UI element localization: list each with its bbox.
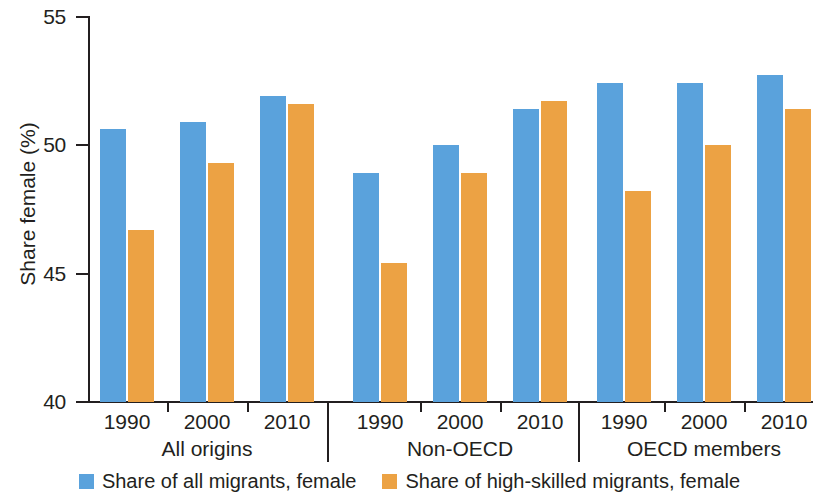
y-axis-tick-50 (76, 144, 88, 146)
bar-all-migrants-1-1990 (353, 173, 379, 402)
bar-high-skilled-1-2000 (461, 173, 487, 402)
chart-legend: Share of all migrants, female Share of h… (0, 470, 819, 492)
x-axis-year-label-2-2000: 2000 (666, 410, 742, 433)
bar-high-skilled-0-2010 (288, 104, 314, 403)
group-separator-1 (327, 402, 329, 462)
x-axis-year-label-0-2010: 2010 (249, 410, 325, 433)
bar-high-skilled-2-2000 (705, 145, 731, 402)
bar-all-migrants-2-2000 (677, 83, 703, 402)
legend-label-high-skilled-migrants: Share of high-skilled migrants, female (405, 470, 740, 492)
bar-all-migrants-0-1990 (100, 129, 126, 402)
bar-all-migrants-1-2010 (513, 109, 539, 402)
legend-label-all-migrants: Share of all migrants, female (102, 470, 357, 492)
bar-all-migrants-2-1990 (597, 83, 623, 402)
bar-high-skilled-1-1990 (381, 263, 407, 402)
bar-high-skilled-1-2010 (541, 101, 567, 402)
bar-all-migrants-1-2000 (433, 145, 459, 402)
legend-item-high-skilled-migrants: Share of high-skilled migrants, female (382, 470, 740, 492)
group-separator-2 (578, 402, 580, 462)
group-label-oecd-members: OECD members (554, 437, 819, 460)
x-axis-year-label-1-2000: 2000 (422, 410, 498, 433)
x-axis-year-label-0-2000: 2000 (169, 410, 245, 433)
y-axis-tick-55 (76, 16, 88, 18)
bar-all-migrants-0-2000 (180, 122, 206, 402)
x-axis-year-label-0-1990: 1990 (89, 410, 165, 433)
bar-high-skilled-2-1990 (625, 191, 651, 402)
bar-all-migrants-0-2010 (260, 96, 286, 402)
blue-square-icon (79, 474, 94, 489)
y-axis-tick-40 (76, 401, 88, 403)
bar-high-skilled-0-2000 (208, 163, 234, 402)
legend-item-all-migrants: Share of all migrants, female (79, 470, 357, 492)
x-axis-year-label-2-1990: 1990 (586, 410, 662, 433)
x-axis-year-label-1-1990: 1990 (342, 410, 418, 433)
y-axis-tick-45 (76, 273, 88, 275)
bar-high-skilled-0-1990 (128, 230, 154, 402)
x-axis-year-label-2-2010: 2010 (746, 410, 819, 433)
y-axis-label-55: 55 (20, 6, 66, 27)
plot-area (88, 16, 813, 402)
x-axis-year-label-1-2010: 2010 (502, 410, 578, 433)
bar-high-skilled-2-2010 (785, 109, 811, 402)
orange-square-icon (382, 474, 397, 489)
grouped-bar-chart: 55 50 45 40 Share female (%) 19902000201… (0, 0, 819, 499)
y-axis-title: Share female (%) (16, 44, 40, 364)
y-axis-label-40: 40 (20, 391, 66, 412)
bar-all-migrants-2-2010 (757, 75, 783, 402)
